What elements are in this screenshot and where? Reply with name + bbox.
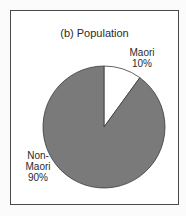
pie-slice-non-maori bbox=[43, 66, 165, 188]
pie-slices bbox=[43, 66, 165, 188]
pie-chart bbox=[0, 0, 186, 216]
